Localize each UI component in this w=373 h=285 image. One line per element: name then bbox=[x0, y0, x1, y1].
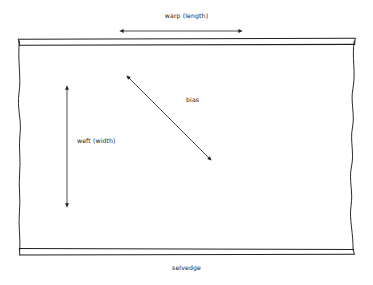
fabric-body bbox=[18, 41, 354, 250]
weft-label: weft (width) bbox=[77, 138, 116, 144]
fabric-illustration bbox=[0, 0, 373, 285]
bias-label: bias bbox=[186, 97, 199, 103]
fabric-left-cut-edge bbox=[18, 41, 20, 250]
bottom-selvedge-band bbox=[19, 249, 354, 256]
top-selvedge-band bbox=[18, 38, 355, 45]
bias-arrow bbox=[129, 78, 209, 158]
selvedge-label: selvedge bbox=[0, 265, 373, 271]
warp-label: warp (length) bbox=[0, 13, 373, 19]
fabric-right-cut-edge bbox=[350, 41, 354, 250]
fabric-grain-diagram: warp (length) weft (width) bias selvedge bbox=[0, 0, 373, 285]
